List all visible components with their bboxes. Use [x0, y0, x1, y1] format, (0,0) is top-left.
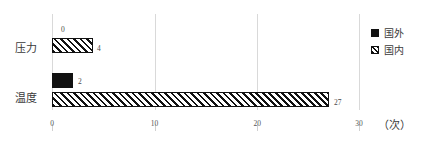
xtick-label-30: 30	[355, 119, 363, 128]
bar-temperature-domestic	[52, 92, 329, 107]
data-label-pressure-foreign: 0	[61, 26, 65, 34]
gridline-30	[359, 14, 360, 110]
xtick-label-20: 20	[254, 119, 262, 128]
axis-unit-label: （次）	[378, 116, 411, 132]
legend-label-foreign: 国外	[384, 25, 404, 40]
data-label-pressure-domestic: 4	[97, 45, 101, 53]
legend-label-domestic: 国内	[384, 42, 404, 57]
xtick-label-10: 10	[151, 119, 159, 128]
data-label-temperature-foreign: 2	[78, 78, 82, 86]
bar-chart: 0 4 2 27 压力 温度 0 10 20 30 （次） 国外 国内	[0, 0, 430, 157]
category-label-temperature: 温度	[6, 89, 46, 105]
solid-square-icon	[371, 29, 379, 37]
xtick-label-0: 0	[50, 119, 54, 128]
plot-area: 0 4 2 27	[52, 14, 360, 110]
bar-temperature-foreign	[52, 73, 73, 88]
legend-item-foreign[interactable]: 国外	[371, 24, 429, 41]
category-label-pressure: 压力	[6, 39, 46, 55]
data-label-temperature-domestic: 27	[334, 99, 342, 107]
legend-item-domestic[interactable]: 国内	[371, 41, 429, 58]
legend: 国外 国内	[371, 24, 429, 58]
bar-pressure-domestic	[52, 38, 93, 53]
hatched-square-icon	[371, 46, 379, 54]
